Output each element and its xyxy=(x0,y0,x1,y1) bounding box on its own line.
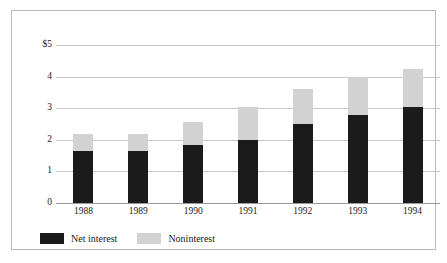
bar-segment-noninterest-1994 xyxy=(403,69,423,107)
bar-1991 xyxy=(238,107,258,203)
y-tick-label-4: 4 xyxy=(18,72,52,82)
bar-segment-noninterest-1988 xyxy=(73,134,93,151)
bar-segment-net-interest-1991 xyxy=(238,140,258,203)
legend-label: Net interest xyxy=(71,234,117,244)
x-tick-label-1990: 1990 xyxy=(170,206,216,216)
x-tick-label-1991: 1991 xyxy=(225,206,271,216)
bar-1988 xyxy=(73,134,93,204)
legend-label: Noninterest xyxy=(168,234,215,244)
y-tick-label-2: 2 xyxy=(18,135,52,145)
bar-1992 xyxy=(293,89,313,203)
gray-swatch xyxy=(137,233,161,244)
x-axis-labels: 1988198919901991199219931994 xyxy=(56,206,440,222)
bar-segment-net-interest-1988 xyxy=(73,151,93,203)
x-tick-label-1992: 1992 xyxy=(280,206,326,216)
gridline-0 xyxy=(56,203,440,204)
gridline-5 xyxy=(56,45,440,46)
x-tick-label-1994: 1994 xyxy=(390,206,436,216)
x-tick-label-1988: 1988 xyxy=(60,206,106,216)
legend-item-noninterest: Noninterest xyxy=(137,233,215,244)
y-tick-label-1: 1 xyxy=(18,166,52,176)
bar-segment-net-interest-1993 xyxy=(348,115,368,203)
bar-1989 xyxy=(128,134,148,204)
x-tick-label-1989: 1989 xyxy=(115,206,161,216)
bar-1990 xyxy=(183,122,203,203)
legend-item-net-interest: Net interest xyxy=(40,233,117,244)
y-tick-label-3: 3 xyxy=(18,103,52,113)
chart-frame: 01234$5 1988198919901991199219931994 Net… xyxy=(11,10,436,250)
black-swatch xyxy=(40,233,64,244)
bar-segment-noninterest-1989 xyxy=(128,134,148,151)
bar-segment-noninterest-1992 xyxy=(293,89,313,124)
bar-segment-net-interest-1989 xyxy=(128,151,148,203)
y-tick-label-5: $5 xyxy=(18,40,52,50)
gridline-4 xyxy=(56,77,440,78)
bar-segment-net-interest-1992 xyxy=(293,124,313,203)
bar-segment-noninterest-1993 xyxy=(348,77,368,115)
chart-legend: Net interestNoninterest xyxy=(40,233,215,244)
bar-1994 xyxy=(403,69,423,203)
y-tick-label-0: 0 xyxy=(18,198,52,208)
x-tick-label-1993: 1993 xyxy=(335,206,381,216)
bar-segment-net-interest-1990 xyxy=(183,145,203,203)
bar-segment-noninterest-1991 xyxy=(238,107,258,140)
bar-segment-net-interest-1994 xyxy=(403,107,423,203)
bar-segment-noninterest-1990 xyxy=(183,122,203,144)
bar-1993 xyxy=(348,77,368,203)
chart-figure: 01234$5 1988198919901991199219931994 Net… xyxy=(0,0,447,263)
y-axis-labels: 01234$5 xyxy=(12,45,52,203)
plot-area xyxy=(56,45,440,203)
